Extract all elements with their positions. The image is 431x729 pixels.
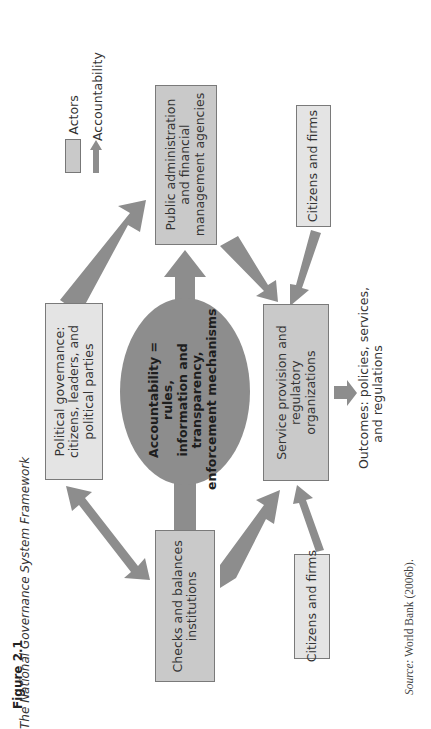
node-public-admin-label: Public administration and financial mana… [164,93,207,236]
legend-accountability-label: Accountability [91,55,107,141]
node-citizens-bottom-label: Citizens and firms [305,550,319,662]
arrow-citizens-top-to-service [290,230,321,306]
legend-actors-label: Actors [67,85,83,145]
node-checks-label: Checks and balances institutions [171,540,200,672]
figure-source: Source: World Bank (2006b). [403,565,419,695]
arrow-public-admin-to-service [220,236,278,302]
node-service: Service provision and regulatory organiz… [263,304,329,481]
center-accountability-label: Accountability = rules, information and … [147,310,223,490]
arrow-political-to-public-admin [60,200,146,314]
arrow-checks-political-double [66,486,150,580]
arrow-citizens-bottom-to-service [293,485,324,552]
arrow-ellipse-to-public-admin [164,250,206,300]
node-checks: Checks and balances institutions [155,530,215,682]
node-political: Political governance: citizens, leaders,… [45,303,103,480]
outcomes-label: Outcomes: policies, services, and regula… [357,319,389,469]
node-citizens-top-label: Citizens and firms [306,110,320,222]
legend-accountability-arrow-icon [90,140,102,173]
node-public-admin: Public administration and financial mana… [155,85,217,245]
arrow-service-to-outcomes [334,380,357,406]
arrow-checks-to-service [220,490,280,588]
node-citizens-bottom: Citizens and firms [294,554,330,659]
node-citizens-top: Citizens and firms [296,105,331,227]
node-service-label: Service provision and regulatory organiz… [274,325,317,460]
figure-title: The National Governance System Framework [19,469,35,729]
node-political-label: Political governance: citizens, leaders,… [52,325,95,458]
